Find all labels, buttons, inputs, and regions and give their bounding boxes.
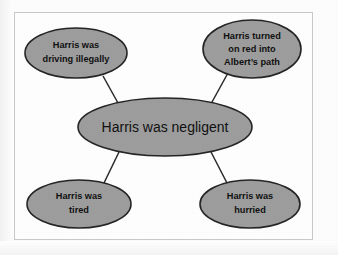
node-shape-was-tired[interactable] [27, 180, 131, 228]
node-label-was-hurried-line2: hurried [234, 205, 266, 215]
node-turned-on-red[interactable]: Harris turned on red into Albert’s path [203, 20, 301, 78]
node-label-central-claim: Harris was negligent [102, 119, 229, 135]
node-label-turned-on-red-line3: Albert’s path [224, 57, 280, 67]
page-canvas: Harris was driving illegally Harris turn… [0, 0, 338, 255]
node-label-turned-on-red-line2: on red into [228, 44, 276, 54]
node-shape-was-hurried[interactable] [200, 180, 300, 228]
node-label-was-tired: Harris was [56, 191, 102, 201]
node-shape-driving-illegally[interactable] [25, 28, 127, 78]
node-label-driving-illegally: Harris was [53, 40, 99, 50]
node-label-was-hurried: Harris was [227, 191, 273, 201]
connector-central-to-driving-illegally [103, 76, 118, 103]
node-label-driving-illegally-line2: driving illegally [43, 54, 111, 64]
node-driving-illegally[interactable]: Harris was driving illegally [25, 28, 127, 78]
node-label-was-tired-line2: tired [69, 205, 89, 215]
node-was-tired[interactable]: Harris was tired [27, 180, 131, 228]
node-label-turned-on-red: Harris turned [223, 31, 281, 41]
concept-map-diagram: Harris was driving illegally Harris turn… [0, 0, 338, 255]
connector-central-to-was-hurried [211, 152, 227, 183]
connector-central-to-turned-on-red [212, 73, 228, 102]
connector-central-to-was-tired [104, 152, 119, 183]
node-was-hurried[interactable]: Harris was hurried [200, 180, 300, 228]
node-central-claim[interactable]: Harris was negligent [78, 98, 252, 156]
